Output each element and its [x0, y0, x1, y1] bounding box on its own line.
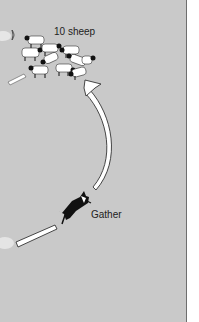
sheep-count-label: 10 sheep	[54, 26, 95, 37]
sheep-icon	[22, 48, 43, 62]
sheep-icon	[29, 66, 49, 79]
diagram-panel: 10 sheep Gather	[0, 0, 187, 322]
glow-top	[0, 31, 11, 41]
diagram-canvas	[0, 0, 186, 322]
glow-bottom	[0, 237, 14, 249]
curved-arrow-icon	[16, 80, 111, 247]
sheep-icon	[41, 51, 60, 64]
crescent-icon	[12, 30, 14, 40]
sheep-icon	[25, 36, 45, 49]
sheepdog-icon	[58, 191, 91, 224]
gather-label: Gather	[91, 209, 122, 220]
sheep-icon	[82, 56, 96, 65]
arrow-segment-top	[8, 74, 26, 85]
sheep-flock	[22, 36, 96, 81]
